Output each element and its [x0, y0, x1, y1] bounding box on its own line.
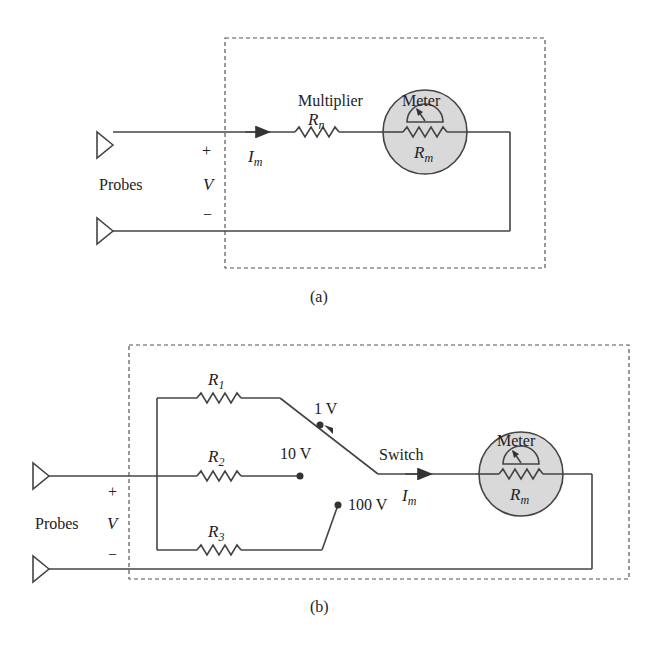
voltmeter-circuit-diagrams: Multiplier Meter Rn Rm Im + V − Probes (… — [0, 0, 647, 651]
caption-a: (a) — [310, 288, 328, 306]
plus-sign: + — [202, 142, 211, 159]
meter-label: Meter — [402, 92, 441, 109]
current-label: Im — [401, 486, 417, 508]
switch-label: Switch — [379, 446, 423, 463]
caption-b: (b) — [310, 598, 329, 616]
probes-label: Probes — [35, 515, 79, 532]
terminal-100v — [335, 502, 342, 509]
r1-label: R1 — [207, 370, 224, 392]
voltage-label: V — [203, 175, 216, 194]
probe-negative-icon — [97, 218, 113, 244]
probe-negative-icon — [33, 556, 49, 582]
probes-label: Probes — [99, 176, 143, 193]
minus-sign: − — [203, 206, 212, 223]
meter-label: Meter — [497, 432, 536, 449]
multiplier-resistance-label: Rn — [307, 110, 324, 132]
r3-label: R3 — [207, 522, 224, 544]
resistor-r2 — [197, 471, 241, 481]
multiplier-label: Multiplier — [298, 92, 364, 110]
resistor-r3 — [197, 545, 241, 555]
terminal-1v — [317, 422, 324, 429]
range-1v-label: 1 V — [314, 400, 338, 417]
figure-a: Multiplier Meter Rn Rm Im + V − Probes (… — [97, 38, 545, 306]
current-label: Im — [247, 147, 263, 169]
range-100v-label: 100 V — [348, 496, 388, 513]
resistor-r1 — [197, 393, 241, 403]
minus-sign: − — [108, 546, 117, 563]
terminal-10v — [297, 473, 304, 480]
probe-positive-icon — [97, 132, 113, 158]
range-10v-label: 10 V — [280, 445, 312, 462]
meter-enclosure-a — [225, 38, 545, 268]
figure-b: R1 R2 R3 1 V 10 V 100 V Switch Meter Rm … — [33, 345, 629, 616]
r2-label: R2 — [207, 447, 224, 469]
probe-positive-icon — [33, 463, 49, 489]
voltage-label: V — [107, 514, 120, 533]
plus-sign: + — [108, 483, 117, 500]
